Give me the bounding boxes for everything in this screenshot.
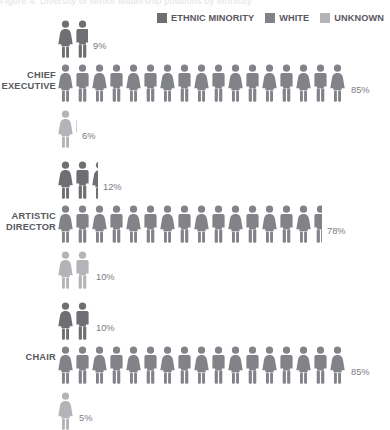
person-figure-icon (312, 346, 329, 384)
person-figure-partial-icon (74, 110, 77, 148)
person-figure-icon (91, 64, 108, 102)
person-figure-icon (142, 205, 159, 243)
person-figure-icon (74, 205, 91, 243)
person-figure-partial-icon (74, 20, 88, 58)
pictogram-icons (57, 64, 346, 102)
person-figure-icon (261, 205, 278, 243)
pictogram-icons (57, 161, 98, 199)
chart-group: CHAIR10%85%5% (0, 296, 390, 430)
person-figure-icon (176, 346, 193, 384)
person-figure-icon (74, 346, 91, 384)
value-label: 10% (96, 323, 115, 333)
value-label: 78% (327, 226, 346, 236)
person-figure-icon (74, 161, 91, 199)
person-figure-icon (176, 64, 193, 102)
person-figure-icon (125, 346, 142, 384)
person-figure-icon (142, 64, 159, 102)
person-figure-icon (108, 64, 125, 102)
pictogram-row[interactable]: 10% (57, 245, 115, 289)
person-figure-icon (57, 110, 74, 148)
group-label: CHAIR (0, 352, 56, 363)
value-label: 5% (79, 413, 92, 423)
person-figure-icon (57, 20, 74, 58)
group-label-line: ARTISTIC (0, 211, 56, 222)
person-figure-icon (74, 302, 91, 340)
group-label-line: EXECUTIVE (0, 81, 56, 92)
pictogram-row[interactable]: 6% (57, 104, 95, 148)
person-figure-icon (295, 205, 312, 243)
person-figure-icon (312, 64, 329, 102)
person-figure-icon (193, 346, 210, 384)
value-label: 10% (96, 272, 115, 282)
pictogram-row[interactable]: 10% (57, 296, 115, 340)
person-figure-icon (193, 205, 210, 243)
group-label: ARTISTICDIRECTOR (0, 211, 56, 233)
person-figure-icon (210, 346, 227, 384)
person-figure-icon (244, 64, 261, 102)
value-label: 6% (82, 131, 95, 141)
pictogram-icons (57, 251, 91, 289)
person-figure-icon (261, 64, 278, 102)
person-figure-icon (57, 392, 74, 430)
pictogram-row[interactable]: 5% (57, 386, 92, 430)
person-figure-icon (108, 346, 125, 384)
person-figure-icon (261, 346, 278, 384)
person-figure-icon (159, 64, 176, 102)
person-figure-icon (74, 251, 91, 289)
person-figure-icon (125, 205, 142, 243)
person-figure-icon (329, 64, 346, 102)
pictogram-icons (57, 20, 88, 58)
pictogram-icons (57, 205, 322, 243)
person-figure-icon (227, 205, 244, 243)
person-figure-icon (57, 205, 74, 243)
pictogram-icons (57, 302, 91, 340)
pictogram-icons (57, 110, 77, 148)
pictogram-icons (57, 392, 74, 430)
person-figure-icon (210, 64, 227, 102)
pictogram-icons (57, 346, 346, 384)
person-figure-icon (244, 346, 261, 384)
person-figure-icon (193, 64, 210, 102)
value-label: 9% (93, 41, 106, 51)
person-figure-icon (159, 346, 176, 384)
person-figure-icon (227, 346, 244, 384)
person-figure-icon (57, 64, 74, 102)
pictogram-row[interactable]: 12% (57, 155, 122, 199)
group-label-line: CHAIR (0, 352, 56, 363)
pictogram-row[interactable]: 9% (57, 14, 106, 58)
person-figure-icon (91, 346, 108, 384)
person-figure-icon (142, 346, 159, 384)
person-figure-icon (295, 64, 312, 102)
person-figure-icon (125, 64, 142, 102)
person-figure-icon (278, 205, 295, 243)
person-figure-icon (159, 205, 176, 243)
pictogram-row[interactable]: 85% (57, 340, 370, 384)
pictogram-chart: Figure 4: Diversity of senior leadership… (0, 0, 390, 430)
person-figure-icon (210, 205, 227, 243)
group-label-line: DIRECTOR (0, 222, 56, 233)
person-figure-icon (108, 205, 125, 243)
person-figure-icon (74, 64, 91, 102)
person-figure-icon (57, 161, 74, 199)
person-figure-icon (278, 64, 295, 102)
person-figure-icon (57, 302, 74, 340)
pictogram-row[interactable]: 85% (57, 58, 370, 102)
chart-group: CHIEFEXECUTIVE9%85%6% (0, 14, 390, 149)
value-label: 12% (103, 182, 122, 192)
person-figure-partial-icon (91, 161, 98, 199)
value-label: 85% (351, 85, 370, 95)
person-figure-icon (91, 205, 108, 243)
group-label: CHIEFEXECUTIVE (0, 70, 56, 92)
person-figure-icon (295, 346, 312, 384)
group-label-line: CHIEF (0, 70, 56, 81)
chart-group: ARTISTICDIRECTOR12%78%10% (0, 155, 390, 290)
person-figure-icon (227, 64, 244, 102)
person-figure-partial-icon (312, 205, 322, 243)
pictogram-row[interactable]: 78% (57, 199, 346, 243)
person-figure-icon (176, 205, 193, 243)
value-label: 85% (351, 367, 370, 377)
person-figure-icon (278, 346, 295, 384)
chart-title: Figure 4: Diversity of senior leadership… (0, 0, 390, 6)
person-figure-icon (57, 251, 74, 289)
person-figure-icon (329, 346, 346, 384)
